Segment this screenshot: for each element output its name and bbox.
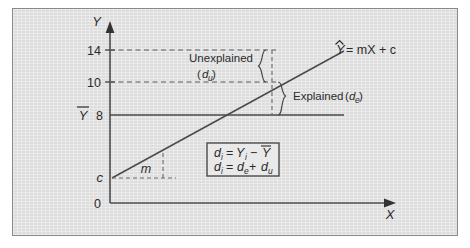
svg-text:): ) [212,68,216,80]
origin-label: 0 [94,197,101,211]
explained-label: Explained [293,90,344,102]
x-axis-group: X 0 [94,197,396,222]
svg-text:(: ( [197,68,201,80]
unexplained-brace-icon [259,50,267,82]
formula1-op: − [250,146,257,160]
regression-equation-rhs: = mX + c [346,43,396,57]
formula-box-group: d i = Y i − Y d i = d e + d u [207,143,279,176]
formula2-eq: = [226,160,233,174]
y-tick-label-14: 14 [87,44,101,58]
svg-text:): ) [359,90,363,102]
mean-y-label-group: Y [77,107,89,123]
formula2-term2-sub: u [268,166,273,176]
unexplained-brace-group: Unexplained ( d u ) [189,50,266,83]
slope-label: m [141,162,151,176]
formula2-op: + [249,160,256,174]
y-axis-arrow-icon [106,21,115,33]
explained-symbol-group: Explained ( d e ) [293,90,363,105]
y-tick-label-10: 10 [87,76,101,90]
y-tick-label-8: 8 [96,109,103,123]
x-axis-label: X [385,207,396,222]
figure-root: Y X 0 14 10 8 Y c Y [0,0,470,248]
y-axis-label: Y [92,14,102,29]
regression-diagram-svg: Y X 0 14 10 8 Y c Y [0,0,470,248]
explained-brace-group: Explained ( d e ) [278,82,363,115]
regression-equation-label: Y = mX + c [336,41,397,57]
y-tick-marks-group: 14 10 8 [87,44,115,123]
regression-equation-lhs: Y [336,42,346,57]
unexplained-symbol: ( d u ) [197,68,216,83]
intercept-label: c [97,170,104,185]
mean-y-label: Y [79,108,89,123]
formula1-eq: = [226,146,233,160]
unexplained-label: Unexplained [189,52,253,64]
slope-triangle-group: m [112,150,176,178]
